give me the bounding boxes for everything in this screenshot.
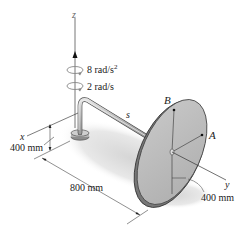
y-axis-label: y [225,180,229,190]
point-a-label: A [209,130,216,141]
rotating-disk-diagram [0,0,244,248]
shaft-label: s [126,110,130,120]
point-b-marker [173,109,176,112]
angular-acceleration-label: 8 rad/s2 [87,65,117,75]
arm-length-dimension-label: 800 mm [70,183,103,193]
angular-velocity-label: 2 rad/s [87,82,114,92]
angular-acceleration-exponent: 2 [114,63,118,71]
point-a-marker [201,134,204,137]
x-axis-label: x [20,132,24,142]
point-b-label: B [164,95,171,106]
base-height-dimension-label: 400 mm [10,143,43,153]
angular-acceleration-value: 8 rad/s [87,64,114,75]
disk-radius-dimension-label: 400 mm [201,193,234,203]
z-axis-label: z [72,10,76,20]
